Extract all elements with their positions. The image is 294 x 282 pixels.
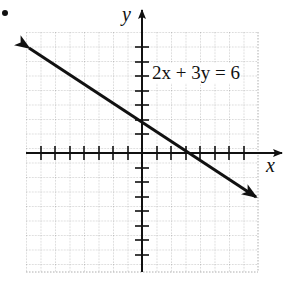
x-axis-label: x [266,154,275,177]
coordinate-plane [0,0,294,282]
y-axis-label: y [122,3,131,26]
equation-label: 2x + 3y = 6 [151,63,241,83]
